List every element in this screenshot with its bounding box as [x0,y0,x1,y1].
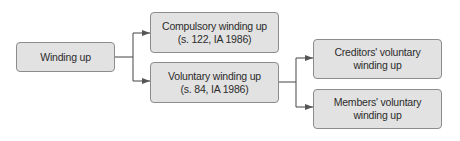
node-creditors-line1: Creditors' voluntary [334,46,420,59]
connector-root-branch [115,33,150,81]
node-members-line2: winding up [353,109,401,122]
node-compulsory-statute: (s. 122, IA 1986) [178,33,252,46]
node-winding-up: Winding up [16,42,115,72]
node-creditors-line2: winding up [353,59,401,72]
node-creditors-voluntary: Creditors' voluntary winding up [313,39,442,79]
node-winding-up-label: Winding up [40,51,91,64]
node-members-voluntary: Members' voluntary winding up [313,89,442,129]
connector-voluntary-branch [278,58,313,107]
node-voluntary-title: Voluntary winding up [168,70,261,83]
node-compulsory-title: Compulsory winding up [162,20,267,33]
node-compulsory-winding-up: Compulsory winding up (s. 122, IA 1986) [150,12,279,53]
node-voluntary-winding-up: Voluntary winding up (s. 84, IA 1986) [150,62,279,103]
node-members-line1: Members' voluntary [334,96,422,109]
node-voluntary-statute: (s. 84, IA 1986) [180,83,248,96]
